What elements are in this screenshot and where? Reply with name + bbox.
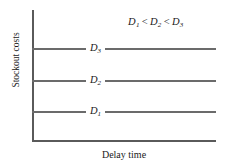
- data-line-label-d2-subscript: 2: [98, 79, 102, 87]
- y-axis-title: Stockout costs: [11, 12, 21, 108]
- data-line-label-d3-base: D: [90, 42, 98, 53]
- data-line-d1: [32, 111, 216, 113]
- data-line-label-d2-base: D: [90, 74, 98, 85]
- x-axis-title: Delay time: [32, 149, 216, 160]
- data-line-d3: [32, 48, 216, 50]
- data-line-d2: [32, 80, 216, 82]
- annotation-operator-2: <: [164, 16, 170, 27]
- annotation-term-3-subscript: 3: [180, 21, 184, 29]
- annotation-term-1: D: [128, 16, 136, 27]
- inequality-annotation: D1<D2<D3: [128, 16, 184, 27]
- y-axis-line: [32, 10, 34, 142]
- data-line-label-d1-subscript: 1: [98, 110, 102, 118]
- annotation-term-3: D: [172, 16, 180, 27]
- annotation-term-1-subscript: 1: [136, 21, 140, 29]
- data-line-label-d3: D3: [86, 43, 105, 54]
- annotation-operator-1: <: [142, 16, 148, 27]
- data-line-label-d1: D1: [86, 106, 105, 117]
- annotation-term-2-subscript: 2: [158, 21, 162, 29]
- stockout-cost-chart: D3 D2 D1 D1<D2<D3 Stockout costs Delay t…: [0, 0, 231, 167]
- data-line-label-d1-base: D: [90, 105, 98, 116]
- data-line-label-d2: D2: [86, 75, 105, 86]
- x-axis-line: [32, 140, 216, 142]
- annotation-term-2: D: [150, 16, 158, 27]
- data-line-label-d3-subscript: 3: [98, 47, 102, 55]
